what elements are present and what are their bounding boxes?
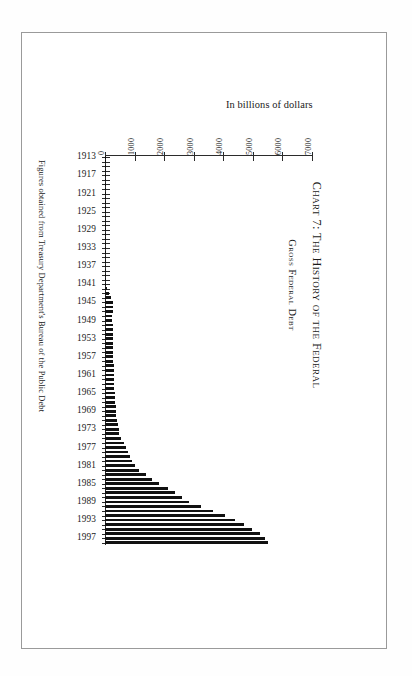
bar [105, 237, 106, 240]
bar [105, 442, 124, 445]
category-tick-label: 1921 [77, 189, 96, 198]
bar [105, 378, 114, 381]
category-tick-label: 1917 [77, 170, 96, 179]
bar [105, 451, 128, 454]
bar [105, 156, 106, 159]
page-background: Chart 7: The History of the Federal Gros… [0, 0, 412, 676]
bar [105, 219, 106, 222]
bar [105, 260, 106, 263]
bar [105, 342, 113, 345]
bar [105, 306, 113, 309]
category-tick-label: 1945 [77, 297, 96, 306]
bar [105, 455, 130, 458]
bar [105, 537, 265, 540]
bar [105, 233, 106, 236]
bar [105, 278, 106, 281]
bar [105, 387, 114, 390]
bar-series [105, 155, 315, 547]
bar [105, 296, 111, 299]
category-tick-label: 1993 [77, 515, 96, 524]
bar [105, 319, 112, 322]
value-tick-label: 7000 [304, 138, 313, 155]
category-tick-label: 1969 [77, 406, 96, 415]
bar [105, 269, 106, 272]
bar [105, 505, 201, 508]
category-tick-label: 1929 [77, 225, 96, 234]
bar [105, 464, 135, 467]
bar [105, 215, 106, 218]
value-tick-label: 3000 [186, 138, 195, 155]
bar [105, 251, 106, 254]
bar [105, 396, 115, 399]
category-tick-label: 1961 [77, 370, 96, 379]
bar [105, 160, 106, 163]
category-tick-label: 1933 [77, 243, 96, 252]
bar [105, 374, 114, 377]
bar [105, 165, 106, 168]
bar [105, 355, 113, 358]
bar [105, 482, 159, 485]
category-tick-label: 1937 [77, 261, 96, 270]
category-tick-label: 1913 [77, 152, 96, 161]
value-axis-caption: In billions of dollars [226, 99, 313, 110]
bar [105, 256, 106, 259]
category-tick-label: 1965 [77, 388, 96, 397]
bar [105, 410, 116, 413]
bar [105, 337, 113, 340]
bar [105, 446, 126, 449]
category-tick-label: 1977 [77, 443, 96, 452]
value-tick-label: 5000 [245, 138, 254, 155]
bar [105, 287, 107, 290]
bar [105, 324, 113, 327]
bar [105, 514, 225, 517]
category-tick-label: 1957 [77, 352, 96, 361]
value-tick-label: 4000 [215, 138, 224, 155]
bar [105, 346, 113, 349]
bar [105, 197, 106, 200]
bar [105, 188, 106, 191]
bar [105, 206, 106, 209]
bar [105, 228, 106, 231]
bar [105, 192, 106, 195]
bar [105, 437, 121, 440]
bar [105, 169, 106, 172]
category-tick-label: 1925 [77, 207, 96, 216]
bar [105, 532, 260, 535]
category-tick-label: 1985 [77, 479, 96, 488]
bar [105, 242, 106, 245]
category-tick-label: 1953 [77, 334, 96, 343]
bar [105, 510, 213, 513]
bar [105, 469, 139, 472]
bar [105, 414, 116, 417]
bar [105, 183, 106, 186]
category-tick-label: 1941 [77, 279, 96, 288]
category-tick-label: 1981 [77, 461, 96, 470]
bar [105, 541, 268, 544]
bar [105, 528, 252, 531]
bar [105, 460, 132, 463]
bar [105, 274, 106, 277]
bar [105, 351, 113, 354]
bar [105, 392, 115, 395]
bar [105, 487, 168, 490]
bar [105, 292, 109, 295]
bar [105, 473, 146, 476]
bar [105, 423, 118, 426]
bar [105, 432, 119, 435]
bar [105, 179, 106, 182]
bar [105, 419, 117, 422]
bar [105, 224, 106, 227]
bar [105, 283, 106, 286]
category-tick-label: 1949 [77, 316, 96, 325]
category-tick-label: 1997 [77, 533, 96, 542]
bar [105, 478, 152, 481]
bar [105, 519, 235, 522]
bar [105, 201, 106, 204]
bar [105, 428, 119, 431]
bar [105, 491, 175, 494]
bar [105, 383, 114, 386]
bar [105, 265, 106, 268]
value-tick-label: 6000 [274, 138, 283, 155]
bar [105, 310, 113, 313]
bar [105, 405, 116, 408]
